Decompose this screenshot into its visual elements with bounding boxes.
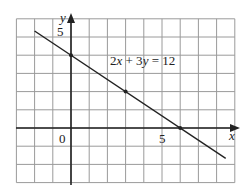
data-point [124, 90, 128, 94]
y-axis [67, 13, 75, 185]
y-axis-arrow-icon [67, 13, 75, 23]
grid [16, 19, 234, 183]
x-axis [16, 124, 240, 132]
y-tick-label: 5 [57, 24, 64, 39]
x-tick-label: 5 [159, 131, 166, 146]
origin-label: 0 [59, 131, 66, 146]
y-axis-label: y [58, 10, 66, 25]
data-point [178, 126, 182, 130]
graph: y x 5 5 0 2x + 3y = 12 [0, 0, 248, 196]
equation-label: 2x + 3y = 12 [110, 53, 175, 68]
x-axis-label: x [228, 128, 235, 143]
data-point [69, 53, 73, 57]
